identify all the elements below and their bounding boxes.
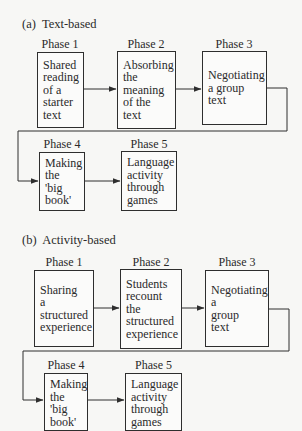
box-line: reading [43, 71, 78, 84]
box-line: through [127, 181, 171, 194]
box-line: text [43, 109, 78, 122]
box-line: text [123, 109, 170, 122]
box-line: structured [126, 315, 176, 328]
section-b-phase-3-label: Phase 3 [205, 255, 269, 270]
box-line: games [131, 416, 176, 429]
box-line: recount [126, 290, 176, 303]
box-line: text [211, 321, 263, 334]
section-b-phase-1-box: Sharing a structured experience [34, 270, 94, 347]
box-line: book' [50, 416, 82, 429]
box-line: Making [50, 378, 82, 391]
section-b-title: (b) Activity-based [22, 233, 116, 248]
box-line: experience [126, 328, 176, 341]
box-line: Sharing [40, 284, 88, 297]
section-a-phase-5-label: Phase 5 [121, 137, 177, 152]
box-line: starter [43, 96, 78, 109]
box-line: the [123, 71, 170, 84]
section-a-phase-3-label: Phase 3 [202, 37, 266, 52]
box-line: Negotiating [208, 69, 261, 82]
box-line: games [127, 194, 171, 207]
section-b-phase-2-label: Phase 2 [120, 255, 182, 270]
box-line: through [131, 403, 176, 416]
box-line: a [40, 296, 88, 309]
box-line: Negotiating [211, 284, 263, 297]
box-line: of the [123, 96, 170, 109]
section-a-phase-1-label: Phase 1 [37, 37, 83, 52]
section-b-phase-4-label: Phase 4 [40, 358, 92, 373]
box-line: experience [40, 321, 88, 334]
section-b-phase-5-label: Phase 5 [125, 358, 182, 373]
box-line: a [211, 296, 263, 309]
section-a-phase-4-label: Phase 4 [36, 137, 88, 152]
section-b-phase-1-label: Phase 1 [34, 255, 94, 270]
box-line: book' [45, 194, 79, 207]
section-b-phase-2-box: Students recount the structured experien… [120, 269, 182, 349]
section-a-phase-2-box: Absorbing the meaning of the text [117, 51, 176, 129]
section-b-phase-5-box: Language activity through games [125, 373, 182, 431]
box-line: Language [127, 156, 171, 169]
box-line: the [45, 169, 79, 182]
section-a-phase-5-box: Language activity through games [121, 151, 177, 211]
box-line: Language [131, 378, 176, 391]
box-line: text [208, 94, 261, 107]
section-b-phase-4-box: Making the 'big book' [44, 373, 88, 431]
section-a-phase-4-box: Making the 'big book' [39, 152, 85, 211]
section-b-phase-3-box: Negotiating a group text [205, 270, 269, 347]
section-a-phase-3-box: Negotiating a group text [202, 51, 267, 125]
section-a-phase-2-label: Phase 2 [117, 37, 175, 52]
box-line: 'big [50, 403, 82, 416]
section-a-phase-1-box: Shared reading of a starter text [37, 52, 84, 128]
section-a-title: (a) Text-based [22, 17, 97, 32]
